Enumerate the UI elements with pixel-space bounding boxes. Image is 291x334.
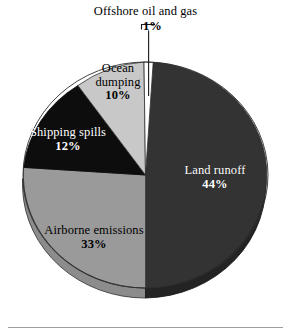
- pie-label-shipping-spills: Shipping spills 12%: [12, 126, 124, 153]
- pie-label-land-runoff-value: 44%: [176, 178, 254, 192]
- pie-label-airborne-emissions: Airborne emissions 33%: [24, 224, 164, 251]
- pie-label-airborne-emissions-value: 33%: [24, 238, 164, 252]
- pie-label-ocean-dumping-value: 10%: [84, 89, 152, 103]
- figure-bottom-rule: [8, 327, 283, 328]
- pie-label-land-runoff-name: Land runoff: [176, 164, 254, 178]
- pie-chart-figure: Offshore oil and gas 1% Ocean dumping 10…: [0, 0, 291, 334]
- pie-label-shipping-spills-name: Shipping spills: [12, 126, 124, 140]
- pie-label-offshore-oil-and-gas-value: 1%: [40, 20, 266, 34]
- pie-label-shipping-spills-value: 12%: [12, 140, 124, 154]
- pie-label-ocean-dumping: Ocean dumping 10%: [84, 62, 152, 103]
- pie-label-land-runoff: Land runoff 44%: [176, 164, 254, 191]
- pie-label-ocean-dumping-name-line1: Ocean: [84, 62, 152, 76]
- pie-label-airborne-emissions-name: Airborne emissions: [24, 224, 164, 238]
- pie-label-offshore-oil-and-gas: Offshore oil and gas 1%: [26, 5, 266, 33]
- pie-label-offshore-oil-and-gas-name: Offshore oil and gas: [26, 5, 266, 19]
- pie-label-ocean-dumping-name-line2: dumping: [84, 76, 152, 90]
